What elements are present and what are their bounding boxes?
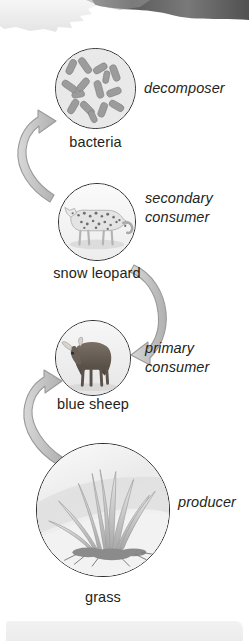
label-snow-leopard: snow leopard [38,265,156,281]
role-secondary-consumer-line2: consumer [145,209,209,226]
role-decomposer: decomposer [144,80,225,97]
blue-sheep-circle-icon [56,321,130,395]
role-primary-consumer-line1: primary [145,340,194,357]
snow-leopard-circle-icon [59,184,135,260]
role-secondary-consumer-line1: secondary [145,190,213,207]
grass-circle-icon [37,444,169,576]
arrow-grass-to-blue-sheep [24,370,62,465]
node-grass[interactable] [36,443,170,577]
label-bacteria: bacteria [55,134,136,150]
role-producer: producer [178,494,236,511]
arrow-snow-leopard-to-bacteria [18,110,56,202]
bacteria-circle-icon [56,49,135,128]
bottom-caption-band [6,621,243,641]
node-snow-leopard[interactable] [58,183,136,261]
food-chain-diagram: bacteria decomposer [0,0,249,641]
node-bacteria[interactable] [55,48,136,129]
label-blue-sheep: blue sheep [43,396,143,412]
label-grass: grass [36,589,170,605]
role-primary-consumer-line2: consumer [145,359,209,376]
node-blue-sheep[interactable] [55,320,131,396]
